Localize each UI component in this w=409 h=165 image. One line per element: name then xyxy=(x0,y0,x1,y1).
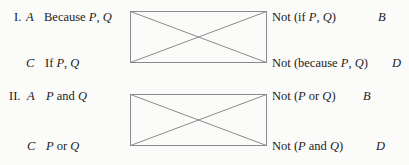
corner-letter-c-2: C xyxy=(27,140,35,153)
corner-letter-a-2: A xyxy=(27,90,35,103)
corner-letter-d-2: D xyxy=(376,140,385,153)
corner-letter-b-2: B xyxy=(363,90,371,103)
proposition-c-1: If P, Q xyxy=(45,57,79,70)
proposition-b-1: Not (if P, Q) xyxy=(272,11,336,24)
logical-square-diagram: I. A Because P, Q Not (if P, Q) B C If P… xyxy=(0,0,409,165)
corner-letter-c-1: C xyxy=(26,57,34,70)
group-numeral-1: I. xyxy=(14,11,21,24)
proposition-c-2: P or Q xyxy=(46,140,79,153)
proposition-d-2: Not (P and Q) xyxy=(272,140,343,153)
proposition-a-1: Because P, Q xyxy=(44,11,112,24)
square-of-opposition-1 xyxy=(129,10,269,66)
corner-letter-b-1: B xyxy=(378,11,386,24)
group-numeral-2: II. xyxy=(9,90,20,103)
proposition-b-2: Not (P or Q) xyxy=(272,90,336,103)
corner-letter-d-1: D xyxy=(392,57,401,70)
proposition-d-1: Not (because P, Q) xyxy=(272,57,368,70)
proposition-a-2: P and Q xyxy=(46,90,87,103)
corner-letter-a-1: A xyxy=(26,11,34,24)
square-of-opposition-2 xyxy=(129,93,269,149)
